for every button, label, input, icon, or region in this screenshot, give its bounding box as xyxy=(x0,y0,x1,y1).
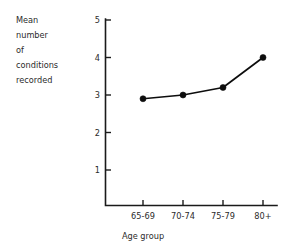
y-tick-label-1: 1 xyxy=(95,165,100,175)
x-tick-label-1: 65-69 xyxy=(131,211,155,221)
data-point xyxy=(260,55,266,61)
data-point xyxy=(180,92,186,98)
line-chart: Mean number of conditions recorded 5 4 3… xyxy=(0,0,284,250)
y-axis-title-line-2: number xyxy=(16,30,49,40)
x-axis-title: Age group xyxy=(122,231,164,241)
data-point xyxy=(220,85,226,91)
x-tick-label-4: 80+ xyxy=(254,211,271,221)
y-tick-label-2: 2 xyxy=(95,128,100,138)
y-tick-label-5: 5 xyxy=(95,15,100,25)
data-point xyxy=(140,96,146,102)
y-axis-title-line-5: recorded xyxy=(16,75,52,85)
y-axis-title-line-4: conditions xyxy=(16,60,58,70)
y-tick-label-4: 4 xyxy=(95,53,100,63)
y-tick-label-3: 3 xyxy=(95,90,100,100)
x-tick-label-2: 70-74 xyxy=(171,211,195,221)
y-axis-title-line-3: of xyxy=(16,45,25,55)
y-axis-title-line-1: Mean xyxy=(16,15,38,25)
chart-page: Mean number of conditions recorded 5 4 3… xyxy=(0,0,284,250)
x-tick-label-3: 75-79 xyxy=(211,211,235,221)
